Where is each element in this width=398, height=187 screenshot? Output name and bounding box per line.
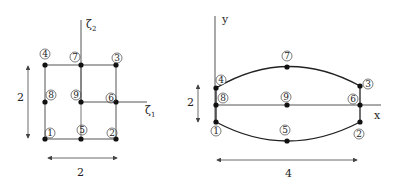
node-6 — [357, 102, 362, 107]
node-7 — [78, 62, 83, 67]
right-element: y x 2 4 — [187, 13, 381, 180]
top-curved-edge — [216, 66, 360, 88]
node-label-4: 4 — [42, 49, 48, 59]
node-label-5: 5 — [282, 125, 288, 135]
y-axis-label: y — [221, 13, 229, 26]
node-label-3: 3 — [114, 53, 120, 63]
node-label-6: 6 — [108, 93, 114, 103]
node-8 — [213, 102, 218, 107]
node-label-1: 1 — [47, 128, 53, 138]
node-label-4: 4 — [218, 75, 224, 85]
node-3 — [357, 83, 362, 88]
width-dimension-label: 4 — [285, 167, 292, 180]
x-axis-label: x — [374, 109, 381, 122]
diagram-canvas: ζ2 ζ1 2 2 — [0, 0, 398, 187]
node-4 — [213, 85, 218, 90]
node-label-7: 7 — [284, 51, 290, 61]
width-dimension-label: 2 — [77, 166, 84, 179]
node-label-6: 6 — [350, 94, 356, 104]
node-8 — [42, 99, 47, 104]
zeta1-axis-label: ζ1 — [145, 104, 155, 119]
height-dimension-label: 2 — [187, 96, 194, 109]
left-element: ζ2 ζ1 2 2 — [17, 18, 155, 179]
node-2 — [357, 119, 362, 124]
node-label-7: 7 — [72, 52, 78, 62]
right-node-labels — [211, 51, 373, 139]
zeta2-axis-label: ζ2 — [86, 18, 96, 33]
node-label-8: 8 — [48, 90, 54, 100]
node-1 — [213, 119, 218, 124]
node-7 — [284, 64, 289, 69]
node-label-3: 3 — [365, 79, 371, 89]
node-label-5: 5 — [79, 125, 85, 135]
node-label-1: 1 — [213, 126, 219, 136]
node-label-2: 2 — [109, 128, 115, 138]
node-4 — [42, 62, 47, 67]
node-label-9: 9 — [73, 90, 79, 100]
node-label-9: 9 — [283, 92, 289, 102]
height-dimension-label: 2 — [17, 91, 24, 104]
node-5 — [284, 138, 289, 143]
node-label-8: 8 — [220, 93, 226, 103]
node-label-2: 2 — [356, 129, 362, 139]
node-5 — [78, 136, 83, 141]
node-9 — [78, 99, 83, 104]
node-9 — [284, 102, 289, 107]
